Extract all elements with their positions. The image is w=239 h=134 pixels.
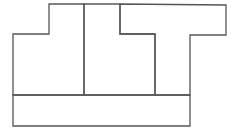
tangram-diagram xyxy=(0,0,239,134)
bottom-bar-piece xyxy=(13,95,190,126)
left-step-piece xyxy=(13,4,84,95)
right-t-piece xyxy=(120,4,226,95)
